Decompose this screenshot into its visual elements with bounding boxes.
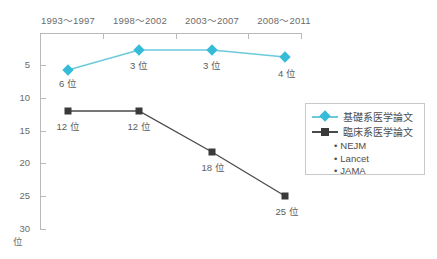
y-axis-label-25: 25	[4, 190, 30, 201]
basic-marker-0	[62, 64, 73, 75]
y-axis-label-15: 15	[4, 125, 30, 136]
category-label-0: 1993〜1997	[32, 13, 104, 27]
plot-right-axis-tick	[301, 33, 302, 39]
basic-marker-3	[279, 51, 290, 62]
clinical-point-label-1: 12 位	[127, 119, 150, 133]
y-axis-label-5: 5	[4, 59, 30, 70]
list-item: •Lancet	[334, 153, 420, 166]
clinical-marker-2	[209, 149, 216, 156]
y-axis-tick-5	[40, 65, 46, 66]
x-axis-tick-3	[248, 33, 249, 39]
chart-legend: 基礎系医学論文 臨床系医学論文 •NEJM •Lancet •JAMA	[305, 103, 425, 175]
clinical-marker-3	[282, 193, 289, 200]
x-axis-tick-2	[176, 33, 177, 39]
basic-marker-2	[206, 44, 217, 55]
clinical-point-label-2: 18 位	[201, 160, 224, 174]
bullet-icon: •	[334, 165, 337, 176]
category-label-3: 2008〜2011	[248, 13, 320, 27]
clinical-point-label-0: 12 位	[56, 119, 79, 133]
basic-point-label-1: 3 位	[130, 58, 148, 72]
x-axis-tick-1	[103, 33, 104, 39]
y-axis-unit-label: 位	[13, 234, 23, 248]
basic-point-label-2: 3 位	[203, 58, 221, 72]
journal-name-lancet: Lancet	[340, 153, 369, 164]
y-axis-tick-25	[40, 196, 46, 197]
journal-name-nejm: NEJM	[340, 140, 366, 151]
y-axis-tick-10	[40, 98, 46, 99]
journal-name-jama: JAMA	[340, 165, 365, 176]
legend-item-clinical[interactable]: 臨床系医学論文	[312, 124, 420, 139]
category-label-2: 2003〜2007	[176, 13, 248, 27]
basic-marker-1	[133, 44, 144, 55]
clinical-series-line	[68, 111, 285, 196]
y-axis-label-20: 20	[4, 157, 30, 168]
plot-top-axis	[40, 33, 301, 35]
square-marker-icon	[312, 126, 338, 137]
list-item: •JAMA	[334, 165, 420, 178]
ranking-line-chart: 1993〜1997 1998〜2002 2003〜2007 2008〜2011 …	[0, 0, 437, 259]
clinical-point-label-3: 25 位	[275, 204, 298, 218]
legend-journal-list: •NEJM •Lancet •JAMA	[312, 140, 420, 178]
y-axis-label-10: 10	[4, 92, 30, 103]
basic-series-line	[68, 50, 285, 70]
y-axis-tick-30	[40, 229, 46, 230]
category-label-1: 1998〜2002	[104, 13, 176, 27]
diamond-marker-icon	[312, 111, 338, 122]
legend-label-clinical: 臨床系医学論文	[343, 124, 413, 139]
basic-point-label-3: 4 位	[278, 66, 296, 80]
bullet-icon: •	[334, 140, 337, 151]
basic-point-label-0: 6 位	[59, 76, 77, 90]
clinical-marker-1	[136, 108, 143, 115]
y-axis-tick-20	[40, 163, 46, 164]
clinical-marker-0	[65, 108, 72, 115]
list-item: •NEJM	[334, 140, 420, 153]
y-axis-tick-15	[40, 131, 46, 132]
bullet-icon: •	[334, 153, 337, 164]
legend-item-basic[interactable]: 基礎系医学論文	[312, 109, 420, 124]
y-axis-label-30: 30	[4, 223, 30, 234]
legend-label-basic: 基礎系医学論文	[343, 109, 413, 124]
